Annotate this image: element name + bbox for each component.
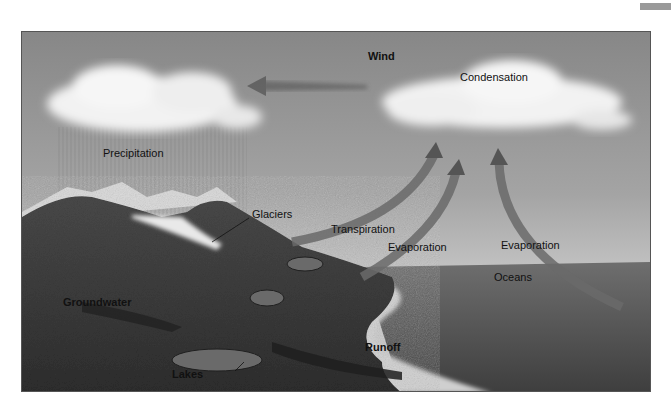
label-lakes: Lakes bbox=[172, 369, 203, 380]
label-precipitation: Precipitation bbox=[103, 148, 164, 159]
label-runoff: Runoff bbox=[365, 342, 400, 353]
water-cycle-diagram: Wind Condensation Precipitation Glaciers… bbox=[21, 31, 651, 392]
lake-small bbox=[250, 290, 284, 306]
label-oceans: Oceans bbox=[494, 272, 532, 283]
label-condensation: Condensation bbox=[460, 72, 528, 83]
label-evaporation-land: Evaporation bbox=[388, 242, 447, 253]
label-transpiration: Transpiration bbox=[331, 224, 395, 235]
corner-tab bbox=[640, 3, 671, 10]
label-groundwater: Groundwater bbox=[63, 297, 131, 308]
label-glaciers: Glaciers bbox=[252, 209, 292, 220]
diagram-illustration bbox=[22, 32, 651, 392]
lake-upper bbox=[287, 257, 323, 271]
label-wind: Wind bbox=[368, 51, 395, 62]
label-evaporation-ocean: Evaporation bbox=[501, 240, 560, 251]
